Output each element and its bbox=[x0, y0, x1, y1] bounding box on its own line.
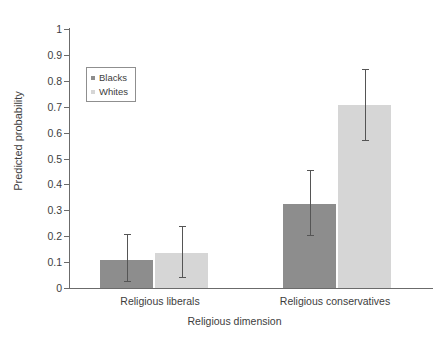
x-axis-title-text: Religious dimension bbox=[188, 315, 282, 327]
y-tick-label: 0.1 bbox=[10, 257, 62, 267]
legend-swatch-blacks-icon bbox=[91, 76, 95, 80]
y-tick-label-wrap: 1 bbox=[0, 24, 62, 34]
y-tick-label-wrap: 0.7 bbox=[0, 102, 62, 112]
y-tick-label: 0.7 bbox=[10, 102, 62, 112]
y-tick-label: 0 bbox=[10, 283, 62, 293]
error-bar-cap-top bbox=[179, 226, 186, 227]
error-bar-cap-top bbox=[307, 170, 314, 171]
y-tick-label-wrap: 0.9 bbox=[0, 50, 62, 60]
error-bar-line-whites-0 bbox=[182, 226, 183, 277]
y-tick-label: 0.4 bbox=[10, 179, 62, 189]
legend: Blacks Whites bbox=[86, 67, 136, 102]
y-tick-label-wrap: 0.8 bbox=[0, 76, 62, 86]
y-tick-label-wrap: 0.4 bbox=[0, 179, 62, 189]
legend-item-whites: Whites bbox=[91, 85, 135, 99]
chart-figure: Predicted probability 00.10.20.30.40.50.… bbox=[0, 0, 447, 338]
legend-label-blacks: Blacks bbox=[99, 73, 127, 83]
error-bar-cap-bottom bbox=[124, 281, 131, 282]
x-axis-line bbox=[69, 288, 433, 289]
error-bar-line-whites-1 bbox=[365, 69, 366, 140]
y-tick-label-wrap: 0.5 bbox=[0, 154, 62, 164]
y-tick-label-wrap: 0.3 bbox=[0, 205, 62, 215]
error-bar-line-blacks-1 bbox=[310, 170, 311, 235]
y-tick-label: 0.3 bbox=[10, 205, 62, 215]
y-tick-label-wrap: 0.6 bbox=[0, 128, 62, 138]
x-tick-label-1: Religious conservatives bbox=[215, 295, 447, 307]
error-bar-cap-top bbox=[124, 234, 131, 235]
error-bar-cap-bottom bbox=[307, 235, 314, 236]
error-bar-cap-bottom bbox=[179, 277, 186, 278]
y-tick-label-wrap: 0 bbox=[0, 283, 62, 293]
y-tick-label-wrap: 0.2 bbox=[0, 231, 62, 241]
error-bar-cap-bottom bbox=[362, 140, 369, 141]
error-bar-cap-top bbox=[362, 69, 369, 70]
y-tick-label: 0.5 bbox=[10, 154, 62, 164]
legend-label-whites: Whites bbox=[99, 87, 128, 97]
y-tick-label: 0.9 bbox=[10, 50, 62, 60]
y-tick-label-wrap: 0.1 bbox=[0, 257, 62, 267]
y-tick-label: 1 bbox=[10, 24, 62, 34]
x-axis-title: Religious dimension bbox=[0, 315, 447, 327]
legend-item-blacks: Blacks bbox=[91, 71, 135, 85]
legend-swatch-whites-icon bbox=[91, 90, 95, 94]
y-tick-label: 0.8 bbox=[10, 76, 62, 86]
y-tick-label: 0.6 bbox=[10, 128, 62, 138]
y-tick-label: 0.2 bbox=[10, 231, 62, 241]
error-bar-line-blacks-0 bbox=[127, 234, 128, 281]
